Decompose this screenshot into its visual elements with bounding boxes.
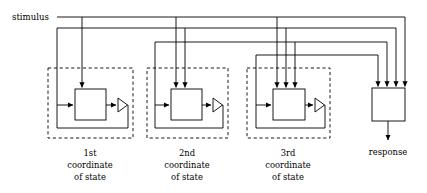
- diagram-canvas: 1st coordinate of state 2nd coordinate o…: [0, 0, 427, 193]
- stimulus-bus: [57, 17, 405, 82]
- svg-text:2nd: 2nd: [179, 148, 196, 158]
- module-coord1-unit: [75, 89, 106, 120]
- module-coord3-unit: [273, 89, 305, 120]
- module-coord2-buffer-icon: [213, 98, 223, 112]
- module-coord2-unit: [171, 89, 202, 120]
- automaton-diagram: 1st coordinate of state 2nd coordinate o…: [0, 0, 427, 193]
- module-coord2-label: 2nd coordinate of state: [164, 148, 210, 182]
- svg-text:of state: of state: [272, 172, 304, 182]
- feedback-bus-coord1: [57, 28, 396, 128]
- svg-text:1st: 1st: [84, 148, 98, 158]
- module-coord2-boundary: [147, 68, 228, 138]
- svg-text:of state: of state: [74, 172, 106, 182]
- feedback-bus-coord3: [256, 55, 378, 128]
- module-coord1-feedback-path: [57, 105, 128, 128]
- module-coord2[interactable]: [147, 68, 228, 138]
- module-coord1-boundary: [48, 68, 133, 138]
- module-coord3-buffer-icon: [315, 98, 325, 112]
- svg-text:coordinate: coordinate: [67, 160, 113, 170]
- module-coord3-label: 3rd coordinate of state: [265, 148, 311, 182]
- svg-text:3rd: 3rd: [281, 148, 296, 158]
- module-coord3-boundary: [247, 68, 330, 138]
- module-coord1-label: 1st coordinate of state: [67, 148, 113, 182]
- module-coord1[interactable]: [48, 68, 133, 138]
- svg-text:coordinate: coordinate: [265, 160, 311, 170]
- svg-text:of state: of state: [171, 172, 203, 182]
- response-unit[interactable]: [372, 82, 405, 140]
- stimulus-label: stimulus: [12, 12, 49, 22]
- svg-text:coordinate: coordinate: [164, 160, 210, 170]
- response-box: [372, 88, 405, 121]
- module-coord3[interactable]: [247, 68, 330, 138]
- response-label: response: [369, 147, 407, 157]
- module-coord1-buffer-icon: [118, 98, 128, 112]
